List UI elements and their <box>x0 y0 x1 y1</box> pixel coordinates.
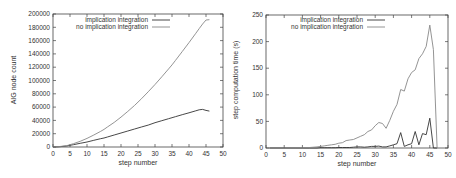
x-tick-label: 45 <box>426 151 434 158</box>
y-tick-label: 250 <box>252 11 263 18</box>
x-tick-label: 25 <box>134 150 142 157</box>
step-computation-time-chart: 05101520253035404550050100150200250step … <box>228 0 456 178</box>
y-tick-label: 120000 <box>28 63 50 70</box>
x-tick-label: 50 <box>219 150 227 157</box>
y-tick-label: 140000 <box>28 50 50 57</box>
y-tick-label: 0 <box>46 143 50 150</box>
x-tick-label: 20 <box>117 150 125 157</box>
y-tick-label: 160000 <box>28 37 50 44</box>
y-tick-label: 60000 <box>32 103 50 110</box>
y-tick-label: 40000 <box>32 117 50 124</box>
x-tick-label: 5 <box>282 151 286 158</box>
x-tick-label: 40 <box>185 150 193 157</box>
x-tick-label: 35 <box>168 150 176 157</box>
y-axis-label: AIG node count <box>10 56 17 105</box>
x-tick-label: 0 <box>51 150 55 157</box>
y-tick-label: 200 <box>252 38 263 45</box>
aig-node-count-chart: 0510152025303540455002000040000600008000… <box>0 0 228 178</box>
series-line-no-implication <box>53 20 209 147</box>
plot-frame <box>53 14 223 147</box>
x-tick-label: 0 <box>264 151 268 158</box>
plot-frame <box>266 15 448 148</box>
y-tick-label: 100000 <box>28 77 50 84</box>
y-tick-label: 150 <box>252 64 263 71</box>
x-tick-label: 5 <box>68 150 72 157</box>
y-tick-label: 100 <box>252 91 263 98</box>
legend-label: no implication integration <box>291 23 363 31</box>
x-tick-label: 35 <box>390 151 398 158</box>
y-tick-label: 50 <box>256 118 264 125</box>
x-axis-label: step number <box>119 159 159 167</box>
x-tick-label: 10 <box>299 151 307 158</box>
x-axis-label: step number <box>338 160 378 168</box>
x-tick-label: 30 <box>372 151 380 158</box>
series-line-no-implication <box>270 25 438 148</box>
y-axis-label: step computation time (s) <box>232 41 240 120</box>
y-tick-label: 20000 <box>32 130 50 137</box>
series-line-implication <box>53 109 209 147</box>
series-line-implication <box>270 118 438 148</box>
y-tick-label: 200000 <box>28 10 50 17</box>
x-tick-label: 40 <box>408 151 416 158</box>
legend-label: no implication integration <box>76 23 148 31</box>
x-tick-label: 20 <box>335 151 343 158</box>
x-tick-label: 25 <box>353 151 361 158</box>
x-tick-label: 45 <box>202 150 210 157</box>
y-tick-label: 80000 <box>32 90 50 97</box>
y-tick-label: 180000 <box>28 24 50 31</box>
step-computation-time-plot: 05101520253035404550050100150200250step … <box>228 0 456 178</box>
aig-node-count-plot: 0510152025303540455002000040000600008000… <box>0 0 228 178</box>
x-tick-label: 15 <box>100 150 108 157</box>
x-tick-label: 15 <box>317 151 325 158</box>
x-tick-label: 30 <box>151 150 159 157</box>
x-tick-label: 10 <box>83 150 91 157</box>
y-tick-label: 0 <box>259 144 263 151</box>
x-tick-label: 50 <box>444 151 452 158</box>
